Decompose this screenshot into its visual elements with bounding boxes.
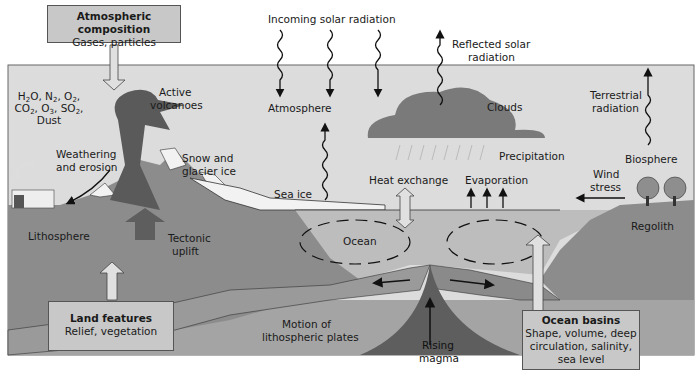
- label-weathering-2: and erosion: [56, 161, 118, 173]
- label-tectonic-1: Tectonic: [168, 232, 211, 244]
- atmospheric-composition-title: Atmospheric composition: [48, 10, 180, 36]
- label-snow-1: Snow and: [182, 152, 233, 164]
- label-reflected-solar-2: radiation: [468, 51, 515, 63]
- label-ocean: Ocean: [343, 235, 377, 247]
- gas-line-3: Dust: [14, 114, 84, 126]
- label-sea-ice: Sea ice: [274, 188, 312, 200]
- land-features-box: Land features Relief, vegetation: [48, 301, 174, 351]
- label-active-volcanoes-2: volcanoes: [150, 99, 203, 111]
- label-atmosphere: Atmosphere: [268, 102, 332, 114]
- label-terrestrial-1: Terrestrial: [590, 89, 642, 101]
- land-features-subtitle: Relief, vegetation: [65, 325, 157, 337]
- label-reflected-solar-1: Reflected solar: [452, 38, 530, 50]
- label-lithosphere: Lithosphere: [28, 230, 90, 242]
- land-features-title: Land features: [49, 312, 173, 325]
- gas-line-2: CO2, O3, SO2,: [14, 102, 84, 114]
- label-regolith: Regolith: [631, 220, 674, 232]
- label-heat-exchange: Heat exchange: [369, 174, 448, 186]
- label-tectonic-2: uplift: [172, 245, 199, 257]
- earth-climate-system-diagram: Atmospheric composition Gases, particles…: [0, 0, 698, 378]
- label-motion-1: Motion of: [282, 318, 331, 330]
- label-motion-2: lithospheric plates: [262, 331, 359, 343]
- label-wind-2: stress: [590, 181, 621, 193]
- label-wind-1: Wind: [593, 168, 619, 180]
- label-clouds: Clouds: [487, 101, 522, 113]
- atmospheric-composition-subtitle: Gases, particles: [72, 36, 156, 48]
- ocean-basins-title: Ocean basins: [523, 314, 639, 327]
- label-biosphere: Biosphere: [625, 153, 677, 165]
- label-incoming-solar: Incoming solar radiation: [268, 13, 396, 25]
- label-terrestrial-2: radiation: [592, 102, 639, 114]
- gas-list: H2O, N2, O2, CO2, O3, SO2, Dust: [14, 90, 84, 126]
- gas-line-1: H2O, N2, O2,: [14, 90, 84, 102]
- ocean-basins-line-2: circulation, salinity,: [523, 340, 639, 353]
- label-active-volcanoes-1: Active: [159, 86, 189, 98]
- label-rising-1: Rising: [422, 339, 454, 351]
- ocean-basins-line-1: Shape, volume, deep: [523, 327, 639, 340]
- atmospheric-composition-box: Atmospheric composition Gases, particles: [47, 5, 181, 43]
- label-rising-2: magma: [419, 352, 459, 364]
- ocean-basins-box: Ocean basins Shape, volume, deep circula…: [522, 310, 640, 370]
- ocean-basins-line-3: sea level: [523, 353, 639, 366]
- label-evaporation: Evaporation: [465, 174, 528, 186]
- label-snow-2: glacier ice: [182, 165, 236, 177]
- label-precipitation: Precipitation: [499, 150, 565, 162]
- label-weathering-1: Weathering: [56, 148, 116, 160]
